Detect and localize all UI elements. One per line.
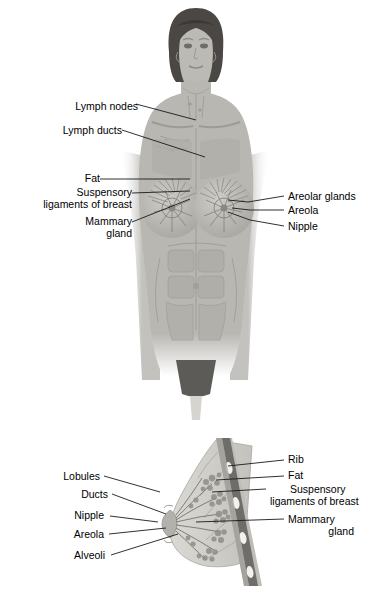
leader-alveoli (111, 534, 178, 555)
label-suspensory-ligaments-lower: Suspensory ligaments of breast (270, 484, 376, 507)
label-suspensory-ligaments: Suspensory ligaments of breast (0, 187, 132, 210)
label-lymph-ducts: Lymph ducts (0, 125, 122, 137)
label-areolar-glands: Areolar glands (288, 191, 356, 203)
label-alveoli: Alveoli (0, 550, 105, 562)
left-breast (142, 178, 202, 238)
label-fat: Fat (0, 173, 100, 185)
label-lymph-nodes: Lymph nodes (0, 101, 138, 113)
right-breast (194, 178, 254, 238)
pelvic-region (176, 360, 216, 397)
leader-nipple-lower (110, 516, 158, 522)
label-areola: Areola (288, 205, 318, 217)
upper-figure-body (120, 8, 270, 420)
lower-figure-sagittal (162, 438, 262, 586)
label-nipple-lower: Nipple (0, 510, 104, 522)
label-mammary-gland-lower: Mammary gland (288, 514, 376, 537)
leader-lobules (104, 476, 160, 492)
right-eye (200, 44, 208, 49)
upper-legs (190, 396, 202, 420)
label-fat-lower: Fat (288, 470, 303, 482)
leader-areola-lower (109, 528, 166, 534)
label-lobules: Lobules (0, 471, 100, 483)
label-mammary-gland: Mammary gland (0, 216, 132, 239)
label-areola-lower: Areola (0, 529, 104, 541)
leader-ducts (112, 494, 166, 514)
right-nipple (221, 205, 228, 212)
label-rib: Rib (288, 454, 304, 466)
label-ducts: Ducts (0, 489, 108, 501)
left-eye (184, 44, 192, 49)
label-nipple: Nipple (288, 221, 318, 233)
